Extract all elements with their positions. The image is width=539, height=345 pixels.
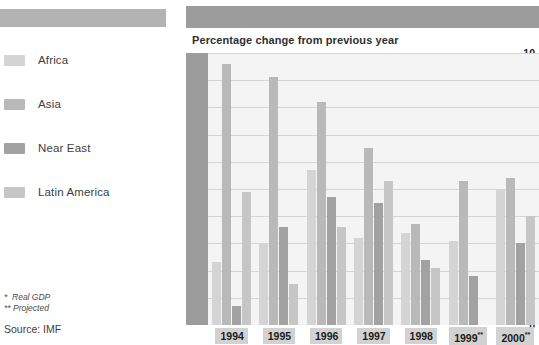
bar-latin-america-1994 [242, 192, 251, 325]
bar-group-1999 [444, 53, 491, 325]
chart-title: Percentage change from previous year [192, 34, 399, 46]
x-label-cell: 1994 [208, 327, 255, 345]
bar-asia-1994 [222, 64, 231, 325]
bar-asia-1999 [459, 181, 468, 325]
chart-panel: Percentage change from previous year 012… [186, 30, 539, 345]
x-label-1995: 1995 [263, 328, 295, 344]
x-label-1999: 1999** [449, 327, 487, 345]
x-label-cell: 1999** [444, 327, 491, 345]
bar-group-2000 [492, 53, 539, 325]
header-band-left [0, 9, 166, 27]
x-axis-labels: 199419951996199719981999**2000** [208, 327, 539, 345]
plot-wrapper: 012345678910 199419951996199719981999**2… [186, 53, 539, 345]
bar-latin-america-1998 [431, 268, 440, 325]
legend-item-latin-america: Latin America [0, 170, 180, 214]
bar-asia-1997 [364, 148, 373, 325]
legend-label-asia: Asia [38, 98, 61, 110]
bar-near-east-1998 [421, 260, 430, 325]
bar-africa-1998 [401, 233, 410, 325]
bar-group-1996 [303, 53, 350, 325]
bar-latin-america-1995 [289, 284, 298, 325]
bar-group-1997 [350, 53, 397, 325]
bar-africa-1999 [449, 241, 458, 325]
legend-item-asia: Asia [0, 82, 180, 126]
bar-africa-2000 [496, 189, 505, 325]
legend-label-near-east: Near East [38, 142, 90, 154]
footnote-projected: ** Projected [4, 303, 179, 314]
legend-swatch-near-east [4, 143, 25, 154]
y-axis-band [186, 53, 208, 325]
bar-group-1998 [397, 53, 444, 325]
bar-latin-america-2000 [526, 216, 535, 325]
x-label-cell: 1995 [255, 327, 302, 345]
bar-africa-1997 [354, 238, 363, 325]
x-label-cell: 2000** [492, 327, 539, 345]
legend-label-latin-america: Latin America [38, 186, 110, 198]
bar-asia-2000 [506, 178, 515, 325]
bar-africa-1995 [259, 243, 268, 325]
plot-area [208, 53, 539, 325]
legend-swatch-latin-america [4, 187, 25, 198]
x-label-1998: 1998 [405, 328, 437, 344]
legend-item-near-east: Near East [0, 126, 180, 170]
bar-africa-1996 [307, 170, 316, 325]
bar-africa-1994 [212, 262, 221, 325]
bar-asia-1996 [317, 102, 326, 325]
bar-group-1995 [255, 53, 302, 325]
x-label-1997: 1997 [357, 328, 389, 344]
x-label-2000: 2000** [496, 327, 534, 345]
header-band-right [186, 6, 539, 28]
source-label: Source: IMF [4, 323, 179, 335]
legend-swatch-africa [4, 55, 25, 66]
x-label-cell: 1997 [350, 327, 397, 345]
chart-legend: Africa Asia Near East Latin America [0, 38, 180, 214]
bar-near-east-1997 [374, 203, 383, 325]
bar-near-east-1994 [232, 306, 241, 325]
legend-swatch-asia [4, 99, 25, 110]
bar-asia-1995 [269, 77, 278, 325]
bar-near-east-1995 [279, 227, 288, 325]
x-label-1994: 1994 [215, 328, 247, 344]
bar-asia-1998 [411, 224, 420, 325]
bar-near-east-2000 [516, 243, 525, 325]
bar-group-1994 [208, 53, 255, 325]
legend-item-africa: Africa [0, 38, 180, 82]
bar-groups [208, 53, 539, 325]
x-label-cell: 1996 [303, 327, 350, 345]
bar-near-east-1999 [469, 276, 478, 325]
footnotes: * Real GDP ** Projected Source: IMF [4, 292, 179, 335]
bar-latin-america-1997 [384, 181, 393, 325]
legend-label-africa: Africa [38, 54, 68, 66]
bar-latin-america-1996 [337, 227, 346, 325]
x-label-1996: 1996 [310, 328, 342, 344]
footnote-real-gdp: * Real GDP [4, 292, 179, 303]
bar-near-east-1996 [327, 197, 336, 325]
x-label-cell: 1998 [397, 327, 444, 345]
